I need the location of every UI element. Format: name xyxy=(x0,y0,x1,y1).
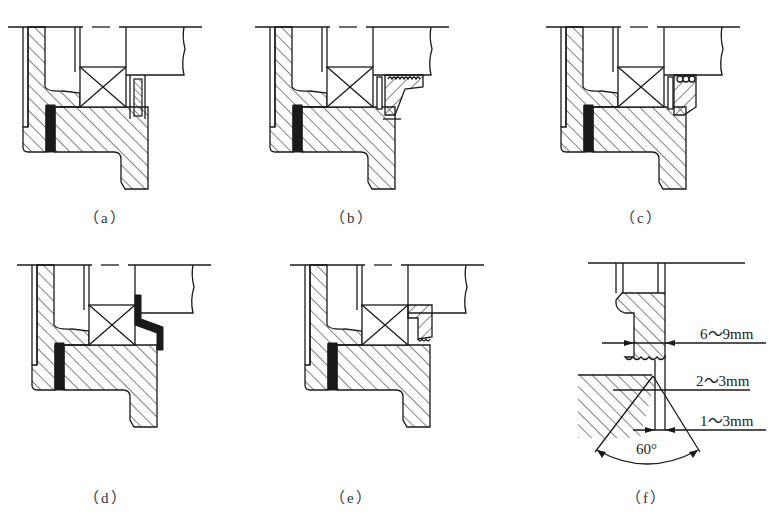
panel-e xyxy=(290,265,484,427)
panel-c xyxy=(546,27,740,189)
panel-f xyxy=(578,263,766,464)
caption-c: （c） xyxy=(620,206,663,227)
dim-label-angle: 60° xyxy=(636,441,657,458)
caption-a: （a） xyxy=(84,206,127,227)
panel-d xyxy=(17,265,211,427)
dim-label-width: 6～9mm xyxy=(700,322,753,343)
dim-label-offset: 1～3mm xyxy=(700,409,753,430)
panel-b xyxy=(255,27,449,189)
dim-label-gap: 2～3mm xyxy=(696,369,749,390)
caption-b: （b） xyxy=(330,206,374,227)
caption-f: （f） xyxy=(626,486,667,507)
caption-e: （e） xyxy=(330,486,373,507)
panel-a xyxy=(8,27,202,189)
seal-structures-diagram xyxy=(0,0,774,518)
caption-d: （d） xyxy=(84,486,128,507)
